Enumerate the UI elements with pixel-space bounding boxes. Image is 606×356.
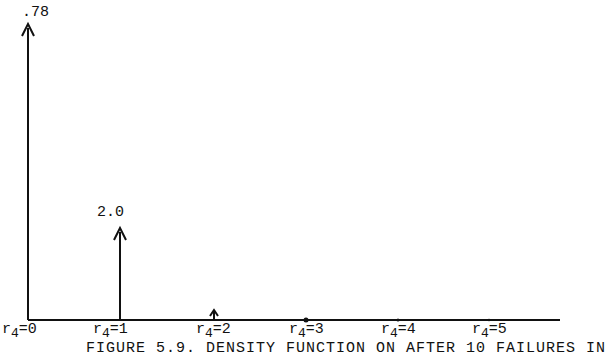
tick-r4-4: r4=4: [381, 322, 416, 337]
tick-r4-3: r4=3: [289, 322, 324, 337]
value-label-r4-0: .78: [22, 5, 49, 20]
value-label-r4-1: 2.0: [97, 205, 124, 220]
figure-caption: FIGURE 5.9. DENSITY FUNCTION ON AFTER 10…: [86, 340, 606, 356]
tick-r4-2: r4=2: [196, 322, 231, 337]
tick-r4-1: r4=1: [93, 322, 128, 337]
tick-r4-5: r4=5: [472, 322, 507, 337]
tick-r4-0: r4=0: [2, 322, 37, 337]
